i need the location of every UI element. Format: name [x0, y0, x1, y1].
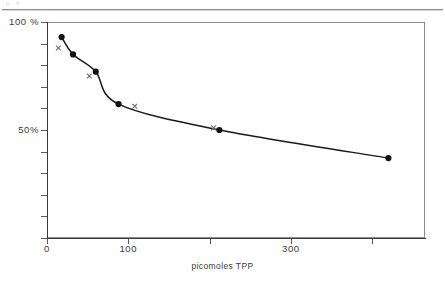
- y-tick: [41, 87, 47, 88]
- y-tick: [41, 108, 47, 109]
- y-axis-line: [47, 22, 48, 239]
- y-tick: [41, 22, 47, 23]
- x-axis-title: picomoles TPP: [0, 261, 445, 271]
- x-tick-label: 100: [108, 243, 148, 254]
- y-tick: [41, 130, 47, 131]
- y-tick: [41, 216, 47, 217]
- x-tick-label: 300: [271, 243, 311, 254]
- y-tick: [41, 152, 47, 153]
- y-tick: [41, 173, 47, 174]
- x-tick-label: 0: [27, 243, 67, 254]
- figure-canvas: p. 4 100 %50% 0100300 picomoles TPP: [0, 0, 445, 281]
- y-tick-label: 50%: [18, 124, 39, 135]
- x-tick: [372, 239, 373, 244]
- x-tick: [210, 239, 211, 244]
- y-tick-label: 100 %: [9, 16, 39, 27]
- y-tick: [41, 195, 47, 196]
- plot-frame: [47, 22, 425, 238]
- scan-text-fragment: p. 4: [6, 0, 20, 6]
- y-tick: [41, 44, 47, 45]
- x-axis-line: [47, 238, 426, 239]
- header-rule-shadow: [2, 10, 443, 11]
- y-tick: [41, 65, 47, 66]
